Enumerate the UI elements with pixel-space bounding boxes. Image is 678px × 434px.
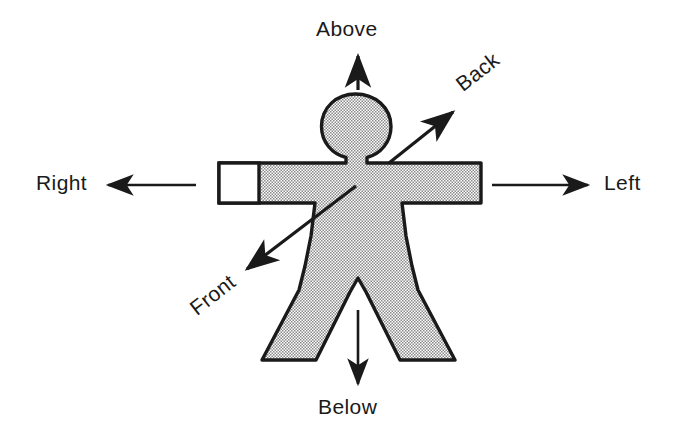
body-silhouette [219,94,481,360]
label-right: Right [36,172,87,193]
label-above: Above [316,18,378,39]
body-direction-diagram [0,0,678,434]
humanoid-figure [219,94,481,360]
label-below: Below [318,396,377,417]
back-arrow [389,112,453,163]
diagram-canvas: Above Below Right Left Back Front [0,0,678,434]
label-left: Left [604,172,641,193]
right-hand-unfilled [219,163,259,203]
